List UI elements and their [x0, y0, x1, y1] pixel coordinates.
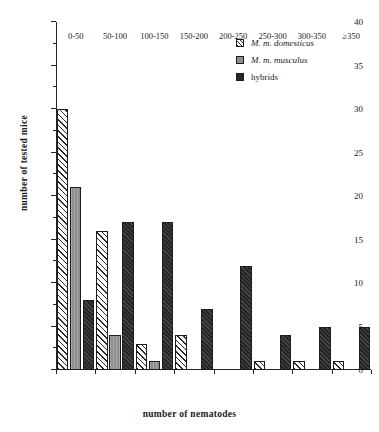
x-tick — [214, 370, 215, 374]
y-tick-major — [51, 326, 56, 327]
y-tick-major — [51, 195, 56, 196]
x-tick-label: 0-50 — [68, 31, 84, 41]
y-tick-minor — [53, 304, 56, 305]
bar — [136, 344, 148, 370]
y-tick-major — [51, 152, 56, 153]
bar — [122, 222, 134, 370]
chart-legend: M. m. domesticusM. m. musculushybrids — [236, 38, 314, 82]
bar — [109, 335, 121, 370]
y-tick-minor — [53, 260, 56, 261]
bar — [333, 361, 345, 370]
y-tick-label: 35 — [339, 61, 363, 71]
y-tick-major — [51, 108, 56, 109]
x-tick — [174, 370, 175, 374]
bar — [359, 327, 371, 371]
x-tick-label: 150-200 — [180, 31, 208, 41]
legend-swatch-icon — [236, 73, 244, 81]
x-tick — [332, 370, 333, 374]
x-axis-title: number of nematodes — [0, 409, 379, 419]
y-tick-minor — [53, 173, 56, 174]
bar-chart: number of tested mice number of nematode… — [0, 0, 379, 432]
y-tick-minor — [53, 86, 56, 87]
plot-area: 0510152025303540 0-5050-100100-150150-20… — [56, 22, 371, 370]
y-tick-minor — [53, 217, 56, 218]
y-tick-minor — [53, 130, 56, 131]
y-tick-label: 10 — [339, 278, 363, 288]
legend-item: M. m. domesticus — [236, 38, 314, 48]
x-tick-label: 50-100 — [103, 31, 127, 41]
y-tick-minor — [53, 43, 56, 44]
y-tick-label: 25 — [339, 148, 363, 158]
bar — [254, 361, 266, 370]
legend-swatch-icon — [236, 56, 244, 64]
x-tick-label: ≥350 — [343, 31, 360, 41]
y-tick-label: 20 — [339, 191, 363, 201]
bar — [201, 309, 213, 370]
legend-label: M. m. domesticus — [251, 38, 314, 48]
y-tick-label: 30 — [339, 104, 363, 114]
bar — [293, 361, 305, 370]
bar — [162, 222, 174, 370]
y-tick-major — [51, 21, 56, 22]
legend-item: M. m. musculus — [236, 55, 314, 65]
y-axis-title: number of tested mice — [19, 73, 29, 253]
bar — [70, 187, 82, 370]
legend-swatch-icon — [236, 39, 244, 47]
bar — [96, 231, 108, 370]
y-tick-major — [51, 239, 56, 240]
legend-label: M. m. musculus — [251, 55, 308, 65]
bar — [240, 266, 252, 370]
bar — [83, 300, 95, 370]
bar — [319, 327, 331, 371]
legend-item: hybrids — [236, 72, 314, 82]
x-tick-label: 100-150 — [140, 31, 168, 41]
bar — [280, 335, 292, 370]
x-tick — [253, 370, 254, 374]
x-tick — [292, 370, 293, 374]
y-tick-major — [51, 282, 56, 283]
x-tick — [135, 370, 136, 374]
x-tick — [95, 370, 96, 374]
bar — [57, 109, 69, 370]
y-tick-major — [51, 65, 56, 66]
y-tick-minor — [53, 347, 56, 348]
x-tick — [371, 370, 372, 374]
legend-label: hybrids — [251, 72, 278, 82]
bar — [149, 361, 161, 370]
bar — [175, 335, 187, 370]
x-tick — [56, 370, 57, 374]
y-tick-label: 40 — [339, 17, 363, 27]
y-tick-label: 15 — [339, 235, 363, 245]
